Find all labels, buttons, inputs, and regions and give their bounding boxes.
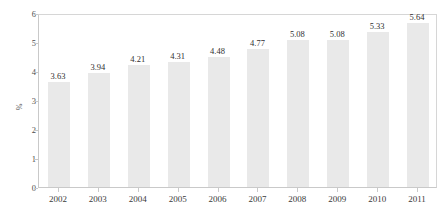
x-tick-label: 2004 <box>118 195 158 204</box>
x-tick-label: 2002 <box>38 195 78 204</box>
y-tick-mark <box>34 43 38 44</box>
bar-chart: % 3.633.944.214.314.484.775.085.085.335.… <box>0 0 447 221</box>
bar-value-label: 4.21 <box>118 55 158 64</box>
bar-value-label: 5.64 <box>397 13 437 22</box>
x-tick-mark <box>178 188 179 192</box>
y-tick-mark <box>34 72 38 73</box>
bar <box>407 23 429 187</box>
x-tick-label: 2006 <box>198 195 238 204</box>
bar-value-label: 3.63 <box>38 72 78 81</box>
x-tick-mark <box>98 188 99 192</box>
bar-value-label: 4.77 <box>237 39 277 48</box>
x-tick-mark <box>257 188 258 192</box>
bar <box>208 57 230 187</box>
bar-value-label: 4.48 <box>198 47 238 56</box>
x-tick-label: 2011 <box>397 195 437 204</box>
x-tick-mark <box>417 188 418 192</box>
bar <box>287 40 309 187</box>
bar <box>247 49 269 187</box>
x-tick-label: 2010 <box>357 195 397 204</box>
x-tick-label: 2003 <box>78 195 118 204</box>
bar-value-label: 5.08 <box>277 30 317 39</box>
x-tick-label: 2007 <box>237 195 277 204</box>
bar <box>367 32 389 187</box>
y-tick-mark <box>34 14 38 15</box>
x-tick-mark <box>337 188 338 192</box>
y-tick-mark <box>34 188 38 189</box>
bar <box>88 73 110 187</box>
bar-value-label: 5.08 <box>317 30 357 39</box>
x-tick-label: 2008 <box>277 195 317 204</box>
y-tick-mark <box>34 159 38 160</box>
y-tick-mark <box>34 130 38 131</box>
x-tick-label: 2009 <box>317 195 357 204</box>
x-tick-mark <box>297 188 298 192</box>
bar <box>48 82 70 187</box>
x-tick-mark <box>377 188 378 192</box>
x-tick-mark <box>218 188 219 192</box>
bar <box>168 62 190 187</box>
bar-value-label: 5.33 <box>357 22 397 31</box>
x-tick-label: 2005 <box>158 195 198 204</box>
bar <box>327 40 349 187</box>
bar-value-label: 4.31 <box>158 52 198 61</box>
bar-value-label: 3.94 <box>78 63 118 72</box>
x-tick-mark <box>58 188 59 192</box>
y-tick-mark <box>34 101 38 102</box>
bar <box>128 65 150 187</box>
x-tick-mark <box>138 188 139 192</box>
